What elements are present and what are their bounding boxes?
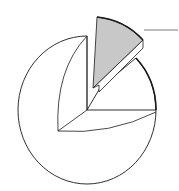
pie-diagram-svg [0, 0, 179, 191]
pie-diagram [0, 0, 179, 191]
pie-slice-left-face [58, 36, 87, 131]
